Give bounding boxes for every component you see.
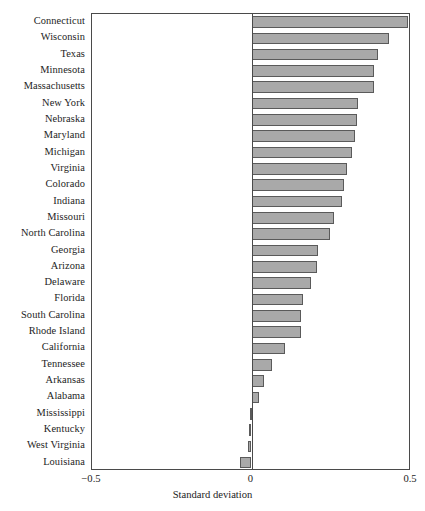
category-label: Connecticut (0, 13, 85, 29)
category-label: Rhode Island (0, 323, 85, 339)
bar (252, 49, 378, 61)
bar (252, 245, 319, 257)
bar (252, 228, 330, 240)
bar-chart: ConnecticutWisconsinTexasMinnesotaMassac… (0, 0, 425, 511)
category-label: Kentucky (0, 421, 85, 437)
category-label: Texas (0, 46, 85, 62)
category-label: West Virginia (0, 437, 85, 453)
plot-area (91, 13, 410, 470)
category-label: Delaware (0, 274, 85, 290)
category-label: Virginia (0, 160, 85, 176)
bar (252, 81, 375, 93)
bar (252, 179, 345, 191)
bar (252, 98, 359, 110)
category-label: Alabama (0, 388, 85, 404)
x-axis-title: Standard deviation (0, 489, 425, 500)
category-label: North Carolina (0, 225, 85, 241)
category-label: Nebraska (0, 111, 85, 127)
x-tick-label-max: 0.5 (380, 472, 425, 486)
bar (252, 294, 303, 306)
category-label: Mississippi (0, 405, 85, 421)
bar (252, 375, 265, 387)
bar (252, 147, 352, 159)
category-label: Maryland (0, 127, 85, 143)
bar (252, 163, 348, 175)
category-label: Missouri (0, 209, 85, 225)
category-label: Wisconsin (0, 29, 85, 45)
bar (252, 277, 311, 289)
bar (252, 196, 343, 208)
category-label: South Carolina (0, 307, 85, 323)
x-tick-label-zero: 0 (221, 472, 281, 486)
bar (252, 392, 260, 404)
category-label: Tennessee (0, 356, 85, 372)
category-label: Minnesota (0, 62, 85, 78)
bar (252, 33, 389, 45)
category-label: Louisiana (0, 454, 85, 470)
bar (252, 16, 408, 28)
bar (252, 114, 357, 126)
bar (252, 326, 301, 338)
category-label: Arizona (0, 258, 85, 274)
category-label: New York (0, 95, 85, 111)
bar (240, 457, 251, 469)
category-label: California (0, 339, 85, 355)
category-label: Massachusetts (0, 78, 85, 94)
x-tick-label-min: −0.5 (61, 472, 121, 486)
category-label: Arkansas (0, 372, 85, 388)
bar (252, 212, 335, 224)
bar (252, 65, 375, 77)
bar (252, 343, 285, 355)
category-label: Indiana (0, 193, 85, 209)
category-label: Georgia (0, 242, 85, 258)
category-label: Florida (0, 290, 85, 306)
bar (252, 359, 273, 371)
category-label: Michigan (0, 144, 85, 160)
bar (252, 310, 301, 322)
bar (252, 130, 356, 142)
zero-axis-line (252, 14, 253, 469)
bar (252, 261, 317, 273)
category-label: Colorado (0, 176, 85, 192)
